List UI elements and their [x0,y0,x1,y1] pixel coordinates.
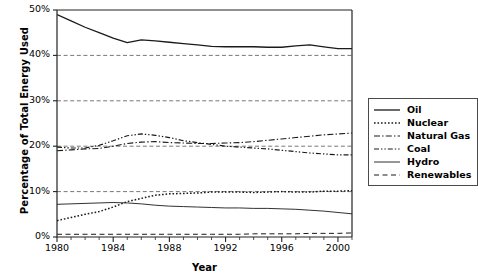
legend-item-oil[interactable]: Oil [373,103,471,116]
legend-label: Coal [407,144,430,154]
legend-item-hydro[interactable]: Hydro [373,155,471,168]
x-axis-title: Year [57,262,352,273]
legend-label: Nuclear [407,118,448,128]
x-tick-label: 1980 [35,242,79,253]
legend-swatch-dash-dot-dot [373,143,401,155]
legend-swatch-solid-thin [373,156,401,168]
x-tick-label: 2000 [316,242,360,253]
series-line-coal [57,134,352,155]
legend-item-nuclear[interactable]: Nuclear [373,116,471,129]
x-tick-label: 1996 [260,242,304,253]
gridlines [57,55,352,191]
legend-item-renewables[interactable]: Renewables [373,168,471,181]
legend-item-natural-gas[interactable]: Natural Gas [373,129,471,142]
series-line-renewables [57,233,352,234]
legend-label: Hydro [407,157,439,167]
series-line-oil [57,15,352,49]
series-line-natural-gas [57,133,352,151]
legend-swatch-dotted [373,117,401,129]
legend-swatch-dash-dot [373,130,401,142]
legend-label: Renewables [407,170,471,180]
series-lines [57,15,352,235]
chart-legend[interactable]: OilNuclearNatural GasCoalHydroRenewables [368,98,478,186]
x-tick-label: 1984 [91,242,135,253]
legend-item-coal[interactable]: Coal [373,142,471,155]
legend-label: Natural Gas [407,131,470,141]
legend-label: Oil [407,105,422,115]
series-line-hydro [57,203,352,214]
legend-swatch-dashed [373,169,401,181]
x-tick-label: 1988 [147,242,191,253]
x-tick-label: 1992 [204,242,248,253]
legend-swatch-solid [373,104,401,116]
series-line-nuclear [57,191,352,221]
